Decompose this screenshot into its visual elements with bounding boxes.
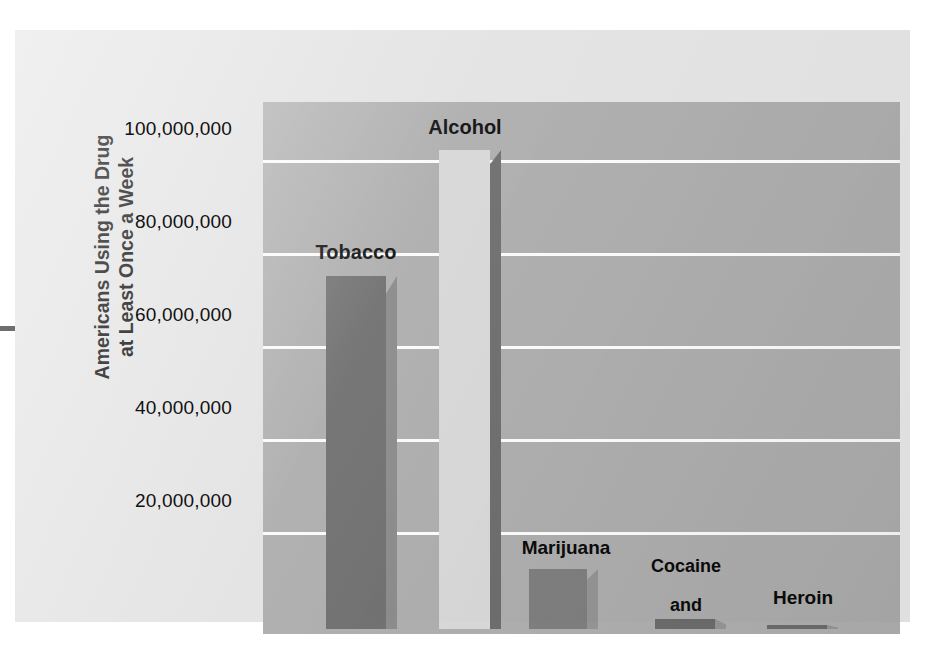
bar-heroin[interactable] xyxy=(767,625,838,629)
bar-label-heroin: Heroin xyxy=(753,588,853,609)
bar-chart-figure: Americans Using the Drug at Least Once a… xyxy=(0,0,939,649)
bar-tobacco-face xyxy=(326,276,386,629)
bar-alcohol-face xyxy=(439,150,490,629)
bar-label-alcohol: Alcohol xyxy=(405,117,525,139)
y-axis-tick-labels: 100,000,000 80,000,000 60,000,000 40,000… xyxy=(80,0,232,649)
bar-marijuana-side xyxy=(587,569,598,629)
bar-tobacco-side xyxy=(386,276,397,629)
bar-heroin-side xyxy=(827,625,838,629)
plot-area: Tobacco Alcohol Marijuana Cocaine and Cr… xyxy=(263,102,900,634)
y-tick-100m: 100,000,000 xyxy=(82,118,232,140)
bar-marijuana-face xyxy=(529,569,587,629)
bar-label-marijuana: Marijuana xyxy=(511,538,621,559)
y-tick-40m: 40,000,000 xyxy=(82,397,232,419)
bar-marijuana[interactable] xyxy=(529,569,598,629)
bar-label-tobacco: Tobacco xyxy=(291,242,421,264)
bar-alcohol[interactable] xyxy=(439,150,501,629)
bar-label-cocaine-line-2: and xyxy=(670,595,702,615)
y-tick-60m: 60,000,000 xyxy=(82,304,232,326)
y-tick-80m: 80,000,000 xyxy=(82,211,232,233)
bar-label-cocaine-and-crack: Cocaine and Crack xyxy=(641,538,731,634)
bar-label-cocaine-line-1: Cocaine xyxy=(651,556,721,576)
y-tick-20m: 20,000,000 xyxy=(82,490,232,512)
bar-tobacco[interactable] xyxy=(326,276,397,629)
bar-heroin-face xyxy=(767,625,827,629)
bar-alcohol-side xyxy=(490,150,501,629)
gridline-100m xyxy=(263,160,900,163)
